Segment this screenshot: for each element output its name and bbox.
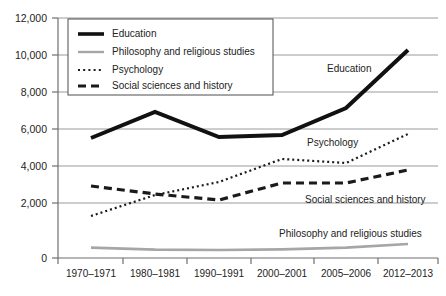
y-tick-label: 4,000: [21, 160, 47, 172]
x-tick-label: 2005–2006: [321, 268, 371, 279]
legend-label-psychology[interactable]: Psychology: [112, 64, 163, 75]
chart-canvas: 12,000 10,000 8,000 6,000 4,000 2,000 0 …: [0, 0, 446, 296]
y-tick-label: 8,000: [21, 86, 47, 98]
x-tick-label: 2012–2013: [383, 268, 433, 279]
annotation-psychology: Psychology: [307, 137, 358, 148]
legend-label-philosophy[interactable]: Philosophy and religious studies: [112, 46, 255, 57]
annotation-education: Education: [327, 63, 371, 74]
y-tick-label: 0: [41, 252, 47, 264]
legend-label-education[interactable]: Education: [112, 28, 156, 39]
legend: Education Philosophy and religious studi…: [68, 19, 273, 95]
y-tick-label: 12,000: [15, 12, 47, 24]
x-tick-label: 1990–1991: [194, 268, 244, 279]
annotation-philosophy: Philosophy and religious studies: [279, 228, 422, 239]
line-chart: 12,000 10,000 8,000 6,000 4,000 2,000 0 …: [0, 0, 446, 296]
x-tick-label: 2000–2001: [257, 268, 307, 279]
x-tick-label: 1970–1971: [66, 268, 116, 279]
annotation-social-sciences: Social sciences and history: [305, 194, 426, 205]
x-tick-label: 1980–1981: [130, 268, 180, 279]
y-tick-label: 2,000: [21, 197, 47, 209]
y-tick-label: 6,000: [21, 123, 47, 135]
legend-label-social-sciences[interactable]: Social sciences and history: [112, 80, 233, 91]
y-tick-label: 10,000: [15, 49, 47, 61]
